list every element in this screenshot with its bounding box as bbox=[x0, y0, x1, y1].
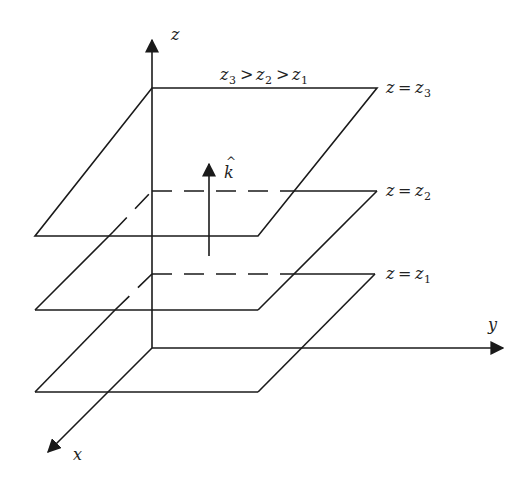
plane-z2-eq: = bbox=[398, 181, 411, 200]
ord-z3: z bbox=[219, 65, 229, 84]
ord-z2-sub: 2 bbox=[265, 74, 272, 87]
x-axis-label: x bbox=[73, 445, 82, 464]
plane-z2-rhs: z bbox=[414, 181, 424, 200]
hat-symbol: ^ bbox=[226, 155, 236, 169]
ord-z1-sub: 1 bbox=[301, 74, 308, 87]
z-axis-label: z bbox=[170, 25, 180, 44]
plane-label-z1: z = z 1 bbox=[385, 264, 431, 286]
ord-z3-sub: 3 bbox=[229, 74, 236, 87]
ord-z1: z bbox=[291, 65, 301, 84]
plane-z1-rhs: z bbox=[414, 264, 424, 283]
plane-label-z3: z = z 3 bbox=[385, 78, 431, 100]
ord-z2: z bbox=[255, 65, 265, 84]
plane-z2-lhs: z bbox=[385, 181, 395, 200]
plane-z3-sub: 3 bbox=[424, 87, 431, 100]
plane-label-z2: z = z 2 bbox=[385, 181, 431, 203]
k-hat-label: k ^ bbox=[224, 155, 236, 182]
plane-z1-eq: = bbox=[398, 264, 411, 283]
ord-gt1: > bbox=[240, 65, 253, 84]
y-axis-label: y bbox=[487, 315, 498, 334]
plane-z1-lhs: z bbox=[385, 264, 395, 283]
ordering-label: z 3 > z 2 > z 1 bbox=[219, 65, 308, 87]
labels-layer: z y x k ^ z 3 > z 2 > z 1 z = z 3 z = z … bbox=[0, 0, 529, 484]
plane-z2-sub: 2 bbox=[424, 190, 431, 203]
plane-z3-lhs: z bbox=[385, 78, 395, 97]
plane-z1-sub: 1 bbox=[424, 273, 431, 286]
plane-z3-eq: = bbox=[398, 78, 411, 97]
plane-z3-rhs: z bbox=[414, 78, 424, 97]
ord-gt2: > bbox=[276, 65, 289, 84]
